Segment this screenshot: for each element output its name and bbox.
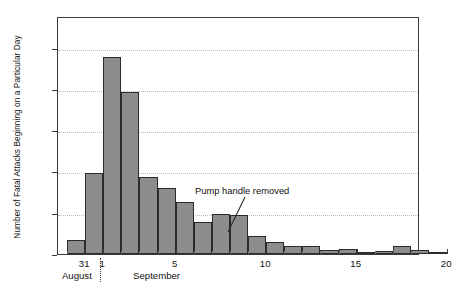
x-minor-tick [248,251,249,254]
annotation-pump-handle-removed: Pump handle removed [195,185,289,196]
y-tick-mark [52,214,57,215]
bar [139,177,157,254]
bar [176,202,194,254]
bar [284,246,302,254]
bar [85,173,103,254]
bar [266,242,284,254]
bar [429,252,447,254]
y-tick-mark [52,49,57,50]
x-tick-mark [357,249,358,254]
bar [212,214,230,254]
x-minor-tick [320,251,321,254]
bar [375,251,393,254]
x-tick-label: 5 [155,258,195,269]
x-minor-tick [121,251,122,254]
bar [194,222,212,254]
x-minor-tick [393,251,394,254]
y-tick-mark [52,131,57,132]
x-minor-tick [302,251,303,254]
bar [357,252,375,254]
plot-area [57,17,419,255]
plot-inner [58,18,418,254]
bar [67,240,85,254]
bar [411,250,429,254]
x-minor-tick [194,251,195,254]
x-minor-tick [284,251,285,254]
y-tick-mark [52,255,57,256]
month-label: September [112,270,202,281]
bar [248,236,266,254]
bar [158,188,176,254]
bar [121,92,139,254]
y-tick-mark [52,172,57,173]
x-minor-tick [67,251,68,254]
bar [302,246,320,254]
bar [230,215,248,254]
x-tick-label: 1 [82,258,122,269]
bar [103,57,121,254]
bar [393,246,411,254]
x-tick-mark [447,249,448,254]
x-tick-label: 10 [245,258,285,269]
x-tick-mark [103,249,104,254]
x-minor-tick [212,251,213,254]
x-minor-tick [375,251,376,254]
x-tick-label: 20 [426,258,456,269]
month-label: August [32,270,122,281]
y-tick-mark [52,90,57,91]
bar [339,249,357,255]
bar [320,250,338,254]
x-minor-tick [339,251,340,254]
y-axis-title: Number of Fatal Attacks Beginning on a P… [12,12,22,262]
x-tick-mark [266,249,267,254]
x-tick-mark [85,249,86,254]
x-minor-tick [139,251,140,254]
x-minor-tick [411,251,412,254]
gridline-y [58,50,418,51]
x-minor-tick [158,251,159,254]
x-minor-tick [230,251,231,254]
x-tick-mark [176,249,177,254]
x-tick-label: 15 [336,258,376,269]
